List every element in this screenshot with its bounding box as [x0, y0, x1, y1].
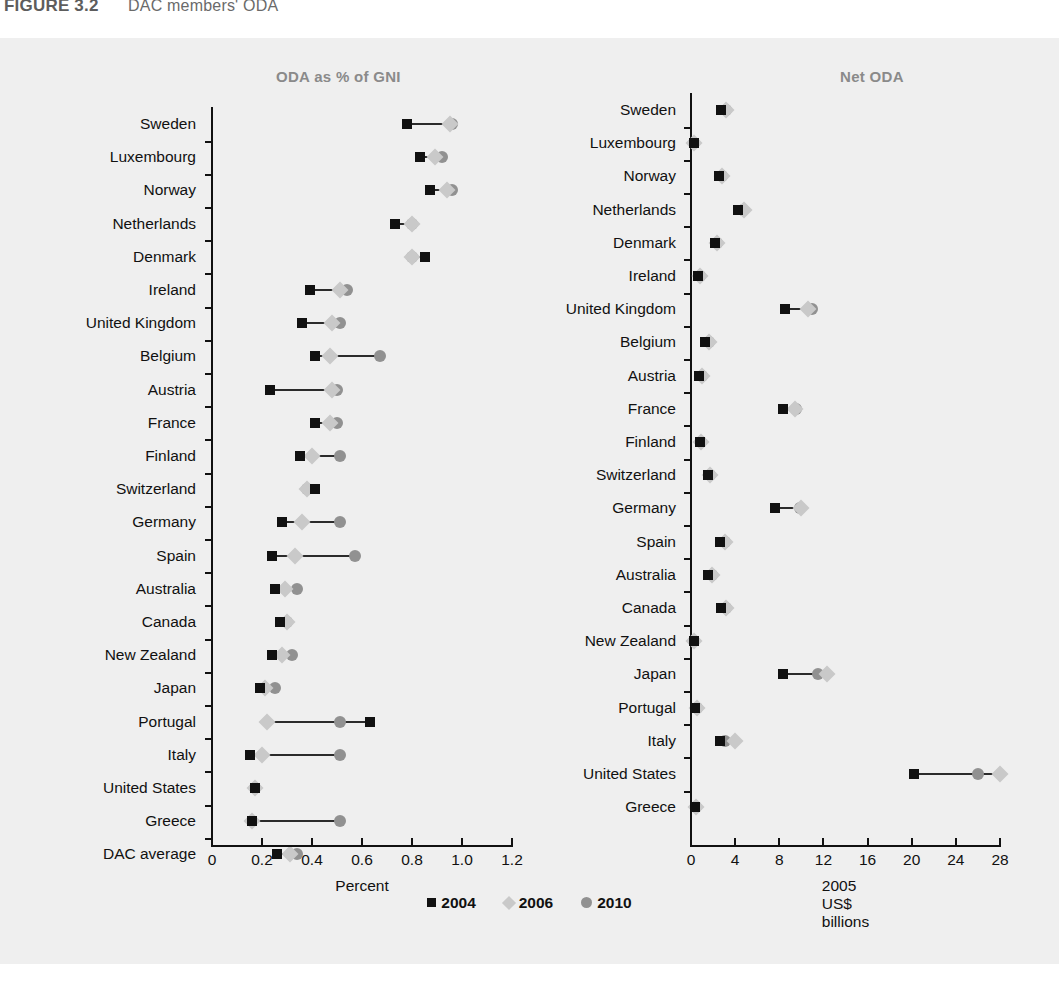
legend-label: 2010	[597, 894, 631, 911]
category-label: Japan	[0, 665, 676, 683]
category-label: Austria	[0, 367, 676, 385]
marker-2004	[415, 152, 425, 162]
y-axis-tick	[684, 591, 691, 593]
marker-2004	[733, 205, 743, 215]
y-axis-tick	[684, 558, 691, 560]
marker-2004	[689, 138, 699, 148]
x-axis-line	[211, 845, 513, 847]
marker-2004	[770, 503, 780, 513]
marker-2004	[703, 570, 713, 580]
x-axis-tick	[211, 838, 213, 845]
marker-2004	[305, 285, 315, 295]
marker-2004	[714, 171, 724, 181]
x-axis-tick	[690, 838, 692, 845]
connector-line	[914, 773, 1000, 775]
marker-2004	[909, 769, 919, 779]
y-axis-tick	[684, 691, 691, 693]
x-axis-tick-label: 0.2	[251, 851, 273, 869]
circle-marker	[581, 897, 592, 908]
x-axis-tick	[361, 838, 363, 845]
marker-2004	[310, 351, 320, 361]
figure-header: FIGURE 3.2 DAC members' ODA	[0, 0, 1059, 38]
marker-2004	[297, 318, 307, 328]
marker-2006	[727, 732, 744, 749]
y-axis-spine	[690, 93, 692, 845]
marker-2004	[703, 470, 713, 480]
x-axis-tick-label: 4	[731, 851, 740, 869]
y-axis-tick	[684, 226, 691, 228]
square-marker	[427, 898, 436, 907]
marker-2004	[694, 371, 704, 381]
marker-2004	[693, 271, 703, 281]
figure-title: DAC members' ODA	[128, 0, 278, 15]
x-axis-tick-label: 0.8	[401, 851, 423, 869]
y-axis-tick	[684, 791, 691, 793]
marker-2004	[265, 385, 275, 395]
figure-number: FIGURE 3.2	[4, 0, 99, 16]
category-label: United Kingdom	[0, 300, 676, 318]
x-axis-tick-label: 16	[859, 851, 876, 869]
y-axis-tick	[684, 625, 691, 627]
x-axis-tick	[461, 838, 463, 845]
category-label: United States	[0, 765, 676, 783]
marker-2004	[716, 603, 726, 613]
category-label: Netherlands	[0, 201, 676, 219]
x-axis-line	[690, 845, 1001, 847]
y-axis-tick	[684, 425, 691, 427]
y-axis-tick	[684, 392, 691, 394]
marker-2004	[270, 584, 280, 594]
y-axis-tick	[684, 525, 691, 527]
y-axis-tick	[684, 259, 691, 261]
y-axis-tick	[684, 359, 691, 361]
marker-2004	[277, 517, 287, 527]
y-axis-tick	[684, 160, 691, 162]
marker-2004	[267, 650, 277, 660]
x-axis-tick	[734, 838, 736, 845]
y-axis-tick	[684, 193, 691, 195]
marker-2004	[425, 185, 435, 195]
marker-2004	[690, 703, 700, 713]
x-axis-tick-label: 0.4	[301, 851, 323, 869]
marker-2006	[992, 766, 1009, 783]
category-label: Canada	[0, 599, 676, 617]
legend-label: 2006	[519, 894, 553, 911]
legend-item-2006: 2006	[504, 893, 553, 912]
x-axis-tick-label: 20	[903, 851, 920, 869]
category-label: Norway	[0, 167, 676, 185]
x-axis-tick-label: 0	[687, 851, 696, 869]
x-axis-tick-label: 24	[947, 851, 964, 869]
connector-line	[272, 555, 355, 557]
marker-2004	[267, 551, 277, 561]
marker-2004	[690, 802, 700, 812]
marker-2004	[272, 849, 282, 859]
x-axis-tick	[411, 838, 413, 845]
category-label: Italy	[0, 732, 676, 750]
marker-2004	[689, 636, 699, 646]
chart-legend: 200420062010	[0, 893, 1059, 912]
marker-2010	[334, 815, 346, 827]
marker-2004	[695, 437, 705, 447]
category-label: Denmark	[0, 234, 676, 252]
chart-title-left: ODA as % of GNI	[276, 68, 401, 85]
y-axis-tick	[684, 459, 691, 461]
x-axis-tick	[778, 838, 780, 845]
marker-2004	[715, 736, 725, 746]
x-axis-tick	[822, 838, 824, 845]
y-axis-tick	[684, 293, 691, 295]
marker-2004	[310, 484, 320, 494]
x-axis-tick-label: 12	[815, 851, 832, 869]
marker-2004	[245, 750, 255, 760]
marker-2010	[334, 450, 346, 462]
x-axis-tick	[955, 838, 957, 845]
category-label: Switzerland	[0, 466, 676, 484]
x-axis-tick-label: 1.2	[501, 851, 523, 869]
category-label: Greece	[0, 798, 676, 816]
legend-item-2004: 2004	[427, 893, 475, 912]
category-label: Luxembourg	[0, 134, 676, 152]
marker-2004	[780, 304, 790, 314]
legend-item-2010: 2010	[581, 893, 631, 912]
marker-2004	[295, 451, 305, 461]
marker-2004	[390, 219, 400, 229]
marker-2004	[716, 105, 726, 115]
category-label: New Zealand	[0, 632, 676, 650]
